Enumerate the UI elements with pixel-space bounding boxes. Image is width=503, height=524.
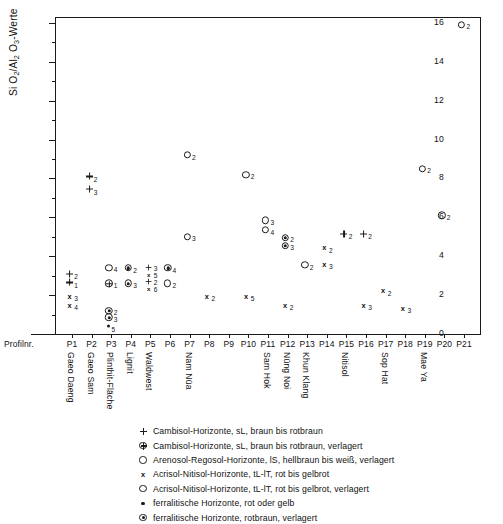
legend-symbol: [133, 510, 153, 524]
x-axis-tick: [444, 334, 445, 338]
data-point: 1: [66, 279, 78, 286]
data-point-count: 2: [329, 246, 333, 253]
x-axis-tick: [268, 334, 269, 338]
legend-symbol: [133, 482, 153, 496]
x-symbol-icon: x: [321, 260, 328, 267]
y-axis-tick: [52, 81, 56, 82]
data-point-count: 2: [172, 282, 176, 289]
data-point-count: 3: [270, 219, 274, 226]
data-point-count: 2: [94, 175, 98, 182]
data-point: 2: [86, 173, 98, 180]
site-name-label: Gaeo Daeng: [66, 352, 76, 403]
data-point: 1: [105, 280, 117, 287]
x-symbol-icon: x: [66, 293, 73, 300]
y-axis-tick-label: 14: [422, 56, 444, 66]
data-point: x4: [66, 301, 78, 308]
site-name-label: Nitisol: [340, 352, 350, 377]
data-point-count: 5: [251, 295, 255, 302]
site-name-label: Sam Hok: [262, 352, 272, 389]
y-axis-tick: [49, 62, 55, 63]
x-axis-line: [31, 334, 481, 335]
site-name-label: Khun Klang: [301, 352, 311, 398]
x-symbol-icon: x: [321, 244, 328, 251]
site-name-label: Plinthit-Fläche: [105, 352, 115, 409]
circle-symbol-icon: [183, 233, 190, 240]
legend-item: Arenosol-Regosol-Horizonte, lS, hellbrau…: [133, 453, 483, 467]
data-point: x3: [321, 260, 333, 267]
legend-label: Acrisol-Nitisol-Horizonte, tL-lT, rot bi…: [153, 469, 329, 479]
x-symbol-icon: x: [399, 304, 406, 311]
data-point-count: 4: [173, 267, 177, 274]
data-point: 2: [360, 230, 372, 237]
y-axis-tick: [49, 295, 55, 296]
dot-symbol-icon: [107, 325, 110, 328]
data-point-count: 3: [368, 304, 372, 311]
legend-symbol: [133, 424, 153, 438]
legend-label: Cambisol-Horizonte, sL, braun bis rotbra…: [153, 426, 323, 436]
ferralitic-symbol-icon: [105, 314, 113, 322]
legend-symbol: [133, 438, 153, 452]
legend-symbol: [133, 496, 153, 510]
x-axis-tick: [72, 334, 73, 338]
data-point: 3: [125, 280, 137, 288]
data-point: 5: [107, 323, 115, 330]
data-point: x5: [145, 271, 157, 278]
legend-item: Acrisol-Nitisol-Horizonte, tL-lT, rot bi…: [133, 482, 483, 496]
y-axis-tick-label: 16: [422, 17, 444, 27]
plus_circle-symbol-icon: [139, 442, 146, 449]
plus-symbol-icon: [360, 230, 367, 237]
y-axis-tick-label: 10: [422, 134, 444, 144]
x-symbol-icon: x: [360, 301, 367, 308]
data-point: x3: [360, 301, 372, 308]
data-point: x6: [145, 285, 157, 292]
data-point: 2: [145, 278, 157, 285]
x-symbol-icon: x: [380, 287, 387, 294]
legend-label: Arenosol-Regosol-Horizonte, lS, hellbrau…: [153, 455, 394, 465]
circle-symbol-icon: [262, 226, 269, 233]
y-axis-tick: [52, 198, 56, 199]
data-point: 3: [281, 242, 293, 250]
legend-item: xAcrisol-Nitisol-Horizonte, tL-lT, rot b…: [133, 467, 483, 481]
legend-label: Acrisol-Nitisol-Horizonte, tL-lT, rot bi…: [153, 484, 369, 494]
data-point-count: 2: [211, 295, 215, 302]
y-axis-tick-label: 8: [422, 172, 444, 182]
data-point-count: 3: [407, 307, 411, 314]
y-axis-tick-label: 4: [422, 250, 444, 260]
plus-symbol-icon: [146, 264, 152, 270]
legend-label: Cambisol-Horizonte, sL, braun bis rotbra…: [153, 441, 363, 451]
data-point-count: 3: [192, 236, 196, 243]
data-point-cluster: 3x52x6: [145, 264, 157, 292]
y-axis-tick: [52, 276, 56, 277]
data-point: 2: [458, 21, 470, 28]
x-axis-tick: [229, 334, 230, 338]
data-point-count: 3: [133, 282, 137, 289]
x-axis-tick: [131, 334, 132, 338]
plus_circle-symbol-icon: [105, 280, 112, 287]
circle-symbol-icon: [419, 165, 426, 172]
legend-symbol: [133, 453, 153, 467]
plus-symbol-icon: [86, 173, 93, 180]
y-axis-tick: [52, 120, 56, 121]
data-point: x2: [282, 301, 294, 308]
y-axis-tick-label: 12: [422, 95, 444, 105]
y-axis-tick: [49, 217, 55, 218]
data-point-count: 3: [329, 263, 333, 270]
y-axis-tick: [49, 101, 55, 102]
plus-symbol-icon: [146, 278, 152, 284]
data-point-count: 2: [349, 233, 353, 240]
x-axis-tick: [425, 334, 426, 338]
plus-symbol-icon: [340, 230, 347, 237]
circle-symbol-icon: [242, 171, 249, 178]
legend-item: ferralitische Horizonte, rotbraun, verla…: [133, 510, 483, 524]
site-name-label: Gaeo Sam: [86, 352, 96, 395]
ferralitic-symbol-icon: [125, 280, 133, 288]
ferralitic-symbol-icon: [281, 234, 289, 242]
plus-symbol-icon: [66, 270, 73, 277]
x-symbol-icon: x: [146, 285, 152, 291]
x-axis-title: Profilnr.: [4, 339, 34, 349]
circle2-symbol-icon: [139, 485, 146, 492]
x-axis-tick: [111, 334, 112, 338]
data-point: x5: [242, 293, 254, 300]
x-symbol-icon: x: [146, 271, 152, 277]
x-axis-tick: [386, 334, 387, 338]
